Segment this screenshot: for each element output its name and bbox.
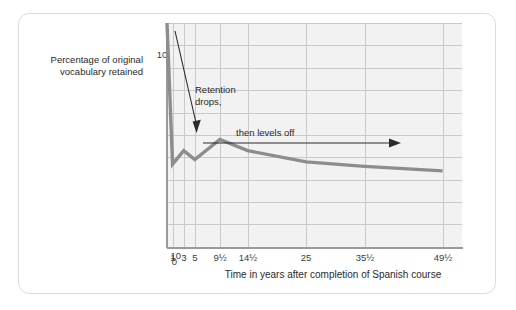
- annotation-retention-drops-line1: Retention: [195, 84, 236, 96]
- gridline-vertical: [365, 23, 366, 247]
- gridline-horizontal: [167, 45, 462, 46]
- y-axis-line: [166, 23, 168, 248]
- x-tick-label: 25: [301, 252, 312, 263]
- gridline-vertical: [220, 23, 221, 247]
- x-tick-label: 5: [192, 252, 197, 263]
- gridline-horizontal: [167, 180, 462, 181]
- x-tick-label: 3: [181, 252, 186, 263]
- gridline-horizontal: [167, 135, 462, 136]
- x-tick-label: 35½: [356, 252, 375, 263]
- gridline-horizontal: [167, 202, 462, 203]
- gridline-horizontal: [167, 113, 462, 114]
- x-tick-label: 14½: [239, 252, 258, 263]
- gridline-vertical: [195, 23, 196, 247]
- y-axis-title: Percentage of original vocabulary retain…: [43, 54, 143, 78]
- x-tick-label: 1: [170, 252, 175, 263]
- x-tick-label: 9½: [213, 252, 226, 263]
- x-axis-tick-labels: 1 3 5 9½ 14½ 25 35½ 49½: [0, 252, 516, 268]
- gridline-vertical: [443, 23, 444, 247]
- gridline-vertical: [184, 23, 185, 247]
- x-axis-title: Time in years after completion of Spanis…: [0, 269, 516, 280]
- annotation-retention-drops: Retention drops,: [195, 84, 236, 108]
- gridline-vertical: [173, 23, 174, 247]
- gridline-horizontal: [167, 68, 462, 69]
- annotation-retention-drops-line2: drops,: [195, 96, 236, 108]
- gridline-horizontal: [167, 23, 462, 24]
- x-tick-label: 49½: [434, 252, 453, 263]
- gridline-horizontal: [167, 224, 462, 225]
- x-axis-line: [167, 247, 463, 249]
- annotation-then-levels-off: then levels off: [236, 127, 294, 138]
- gridline-vertical: [306, 23, 307, 247]
- plot-area: [167, 23, 462, 247]
- gridline-horizontal: [167, 157, 462, 158]
